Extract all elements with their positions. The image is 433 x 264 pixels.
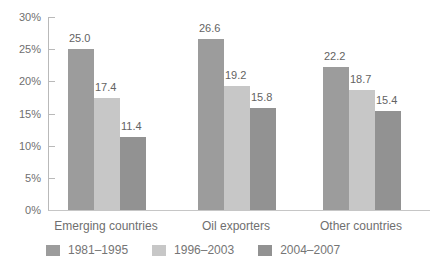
bar [349,90,375,210]
bar-slot: 18.7 [349,17,375,210]
y-axis-tick-label: 10% [1,141,41,152]
bar [323,67,349,210]
y-axis-tick-mark [49,17,55,18]
category-label: Oil exporters [202,219,270,233]
y-axis-tick-mark [49,114,55,115]
category-label: Other countries [320,219,402,233]
y-axis-tick-label: 5% [1,173,41,184]
legend-item: 1981–1995 [46,243,128,257]
y-axis-tick-label: 30% [1,12,41,23]
bar [94,98,120,210]
y-axis-tick-label: 25% [1,44,41,55]
bar-value-label: 26.6 [199,23,220,34]
bar-value-label: 11.4 [121,121,142,132]
bar [68,49,94,210]
bar-value-label: 22.2 [324,51,345,62]
legend-swatch [258,245,272,256]
y-axis-tick-mark [49,146,55,147]
y-axis-tick-label: 20% [1,76,41,87]
y-axis-tick-mark [49,81,55,82]
bar-slot: 15.8 [250,17,276,210]
legend-label: 1996–2003 [174,243,234,257]
y-axis-tick-label: 0% [1,205,41,216]
y-axis-tick-mark [49,178,55,179]
bar-slot: 19.2 [224,17,250,210]
bar [250,108,276,210]
legend: 1981–19951996–20032004–2007 [46,243,340,257]
bar [198,39,224,210]
legend-swatch [152,245,166,256]
legend-swatch [46,245,60,256]
bar-value-label: 17.4 [95,82,116,93]
bar-group: 25.017.411.4 [68,17,146,210]
legend-item: 1996–2003 [152,243,234,257]
bar-slot: 22.2 [323,17,349,210]
bar-value-label: 15.8 [251,92,272,103]
bar-slot: 17.4 [94,17,120,210]
bar-value-label: 25.0 [69,33,90,44]
legend-label: 1981–1995 [68,243,128,257]
plot-area: 0%5%10%15%20%25%30%25.017.411.426.619.21… [48,17,430,211]
bar-slot: 25.0 [68,17,94,210]
y-axis-tick-label: 15% [1,109,41,120]
bar-slot: 26.6 [198,17,224,210]
bar-value-label: 18.7 [350,74,371,85]
bar-slot: 11.4 [120,17,146,210]
legend-item: 2004–2007 [258,243,340,257]
bar-slot: 15.4 [375,17,401,210]
bar-value-label: 15.4 [376,95,397,106]
category-label: Emerging countries [54,219,157,233]
bar-group: 22.218.715.4 [323,17,401,210]
bar-chart: 0%5%10%15%20%25%30%25.017.411.426.619.21… [0,0,433,264]
y-axis-tick-mark [49,49,55,50]
bar-value-label: 19.2 [225,70,246,81]
legend-label: 2004–2007 [280,243,340,257]
bar [375,111,401,210]
bar [224,86,250,210]
bar [120,137,146,210]
bar-group: 26.619.215.8 [198,17,276,210]
